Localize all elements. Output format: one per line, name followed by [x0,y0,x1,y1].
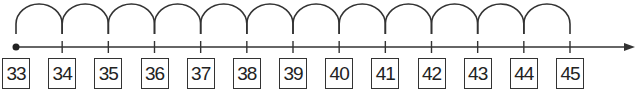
jump-arc [201,4,247,34]
number-label-box: 42 [418,58,446,89]
jump-arcs [16,4,570,34]
number-label-box: 38 [233,58,261,89]
arrow-right-icon [624,43,635,51]
jump-arc [108,4,154,34]
jump-arc [155,4,201,34]
jump-arc [478,4,524,34]
number-label-box: 39 [279,58,307,89]
number-label-box: 37 [187,58,215,89]
number-label-box: 44 [510,58,538,89]
number-label-box: 36 [141,58,169,89]
jump-arc [339,4,385,34]
jump-arc [293,4,339,34]
number-label-box: 40 [325,58,353,89]
start-dot-icon [13,44,20,51]
jump-arc [524,4,570,34]
number-label-box: 33 [2,58,30,89]
jump-arc [432,4,478,34]
number-label-box: 43 [464,58,492,89]
jump-arc [385,4,431,34]
number-label-box: 41 [371,58,399,89]
number-label-box: 45 [556,58,584,89]
number-label-box: 34 [48,58,76,89]
number-label-box: 35 [94,58,122,89]
jump-arc [62,4,108,34]
jump-arc [16,4,62,34]
jump-arc [247,4,293,34]
